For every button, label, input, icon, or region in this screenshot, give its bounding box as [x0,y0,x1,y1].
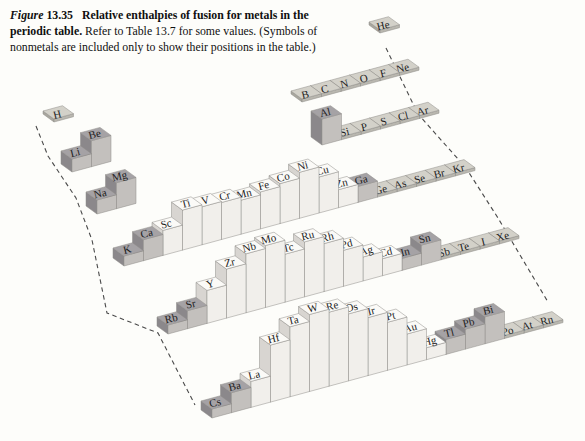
bar-front-face [319,172,339,213]
figure-label-number: 13.35 [46,8,73,22]
bar-front-face [300,167,320,218]
bar-front-face [241,195,261,234]
bar-front-face [246,249,266,313]
bar-front-face [290,322,310,397]
figure-caption: Figure 13.35 Relative enthalpies of fusi… [10,8,340,55]
bar-front-face [344,245,364,286]
bar-front-face [271,340,291,402]
segment-period3-s: MgNa [86,168,136,214]
segment-period2-p: NeFONCB [291,59,419,102]
bar-front-face [222,197,242,239]
periodic-table-3d-chart: HHeNeFONCBBeLiArClSPSiAlMgNaKrBrSeAsGeGa… [0,0,585,441]
segment-period3-p: ArClSPSiAl [311,102,439,145]
bar-front-face [266,240,286,307]
bar-front-face [349,309,369,381]
bar-front-face [261,187,281,229]
bar-front-face [407,329,427,365]
bar-front-face [305,237,325,297]
segment-period2-s: BeLi [61,126,111,172]
bar-front-face [280,178,300,223]
bar-front-face [368,312,388,375]
segment-period1-p: He [369,17,400,33]
bar-front-face [227,264,247,318]
figure-label-word: Figure [10,8,43,22]
bar-front-face [329,307,349,386]
bar-front-face [183,205,203,250]
segment-period1-s: H [43,106,74,122]
bar-front-face [285,249,305,302]
bar-front-face [388,317,408,370]
bar-front-face [310,309,330,391]
element-he: He [369,17,400,33]
figure-13-35: HHeNeFONCBBeLiArClSPSiAlMgNaKrBrSeAsGeGa… [0,0,585,441]
bar-front-face [324,238,344,291]
segment-period6: RnAtPoBiPbTlHgAuPtIrOsReWTaHfLaBaCs [201,298,563,418]
bar-front-face [207,285,227,323]
period-boundary-dash-left [36,126,195,405]
bar-front-face [202,202,222,245]
bar-front-face [485,312,505,344]
element-al: Al [311,105,342,145]
element-h: H [43,106,74,122]
